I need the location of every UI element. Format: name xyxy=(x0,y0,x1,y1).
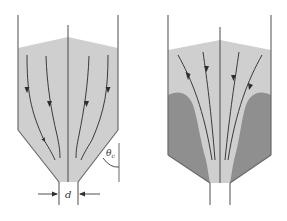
silo-flow-diagram: d θc xyxy=(0,0,287,221)
funnel-flow-panel xyxy=(168,15,271,205)
hopper-angle-arc xyxy=(103,158,119,167)
arrow-left-icon xyxy=(79,192,85,197)
outlet-diameter-label: d xyxy=(65,189,71,200)
mass-flow-panel: d θc xyxy=(18,15,119,205)
hopper-angle-label: θc xyxy=(106,148,115,159)
arrow-right-icon xyxy=(52,192,58,197)
